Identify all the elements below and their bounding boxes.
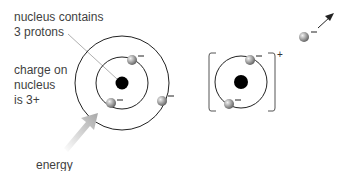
electron-icon: [157, 96, 167, 106]
electron-icon: [127, 55, 137, 65]
lithium-ion: +: [209, 49, 283, 111]
energy-arrow-icon: [64, 113, 98, 152]
nucleus: [116, 77, 129, 90]
electron-icon: [299, 32, 309, 42]
atom-diagram: +: [0, 0, 357, 171]
ion-charge: +: [277, 49, 283, 60]
electron-icon: [245, 55, 255, 65]
ejected-electron: [299, 13, 334, 42]
electron-icon: [106, 98, 116, 108]
electron-icon: [224, 99, 234, 109]
pointer-line: [68, 34, 117, 79]
ion-nucleus: [234, 75, 248, 89]
